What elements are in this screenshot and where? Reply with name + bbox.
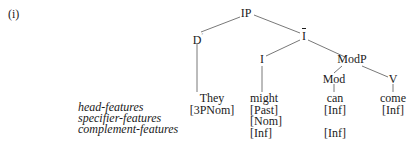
node-d: D′ [193, 31, 203, 46]
leaf-feature: [Inf] [324, 128, 346, 140]
leaf-feature: [Inf] [324, 105, 346, 117]
complement-features-label: complement-features [78, 124, 178, 135]
leaf-might: might [Past] [Nom] [Inf] [250, 93, 282, 139]
node-i: I [260, 53, 264, 65]
leaf-they: They [3PNom] [190, 93, 235, 116]
tree-edges [0, 0, 412, 147]
leaf-feature: [Inf] [250, 128, 282, 140]
node-d-label: D [193, 33, 202, 47]
node-ip: IP [241, 7, 252, 19]
feature-labels: head-features specifier-features complem… [78, 102, 178, 135]
leaf-feature: [Inf] [380, 105, 406, 117]
node-modp: ModP [337, 53, 366, 65]
leaf-can: can [Inf] [Inf] [324, 93, 346, 139]
node-mod: Mod [323, 73, 346, 85]
node-i-bar: I [302, 30, 306, 42]
leaf-feature: [3PNom] [190, 105, 235, 117]
example-label: (i) [8, 8, 19, 20]
node-v: V [389, 73, 398, 85]
prime-mark: ′ [201, 32, 203, 41]
leaf-come: come [Inf] [380, 93, 406, 116]
